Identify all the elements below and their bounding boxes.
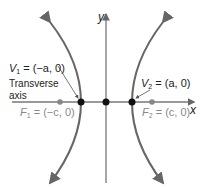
vertex-1 (78, 99, 85, 106)
f1-label: F1 = (−c, 0) (20, 106, 75, 122)
v1-label: V1 = (−a, 0) (9, 62, 65, 78)
v1-rest: = (−a, 0) (20, 62, 65, 74)
hyperbola-diagram (0, 0, 207, 187)
focus-2 (149, 99, 155, 105)
transverse-label-2: axis (9, 90, 27, 102)
y-axis-label: y (98, 11, 104, 23)
f2-label: F2 = (c, 0) (142, 106, 190, 122)
v2-rest: = (a, 0) (152, 77, 190, 89)
v2-label: V2 = (a, 0) (141, 77, 190, 93)
x-axis-label: x (190, 104, 196, 116)
f1-rest: = (−c, 0) (31, 106, 75, 118)
center-point (103, 99, 110, 106)
f2-name: F (142, 106, 149, 118)
f1-name: F (20, 106, 27, 118)
focus-1 (57, 99, 63, 105)
f2-rest: = (c, 0) (153, 106, 191, 118)
transverse-label-1: Transverse (9, 78, 59, 90)
vertex-2 (129, 99, 136, 106)
